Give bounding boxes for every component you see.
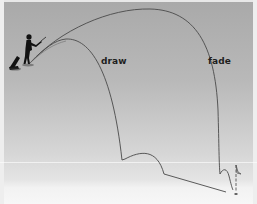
- trajectory-artwork: [0, 0, 257, 204]
- golf-bag-icon: [9, 56, 21, 71]
- fade-trajectory: [30, 9, 233, 190]
- flag-pin-icon: [236, 165, 241, 192]
- golf-trajectory-diagram: draw fade: [0, 0, 257, 204]
- hole-icon: [234, 193, 238, 195]
- draw-label: draw: [101, 56, 127, 66]
- draw-trajectory: [30, 39, 226, 192]
- fade-label: fade: [208, 56, 231, 66]
